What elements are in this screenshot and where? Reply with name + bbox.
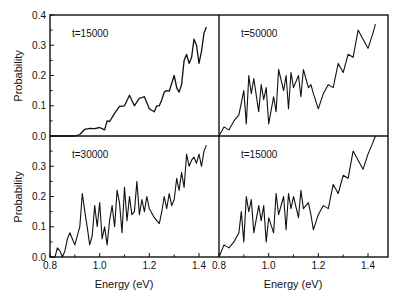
x-axis-title-left: Energy (eV) bbox=[95, 278, 154, 290]
panel-label: t=50000 bbox=[241, 28, 278, 39]
panel-label: t=30000 bbox=[72, 149, 109, 160]
x-tick-label: 1.2 bbox=[311, 260, 325, 271]
panel-label: t=15000 bbox=[72, 28, 109, 39]
panel-bottom-left: t=30000 bbox=[50, 145, 206, 257]
y-tick-label: 0.3 bbox=[32, 161, 46, 172]
data-line bbox=[219, 24, 375, 136]
data-line bbox=[50, 27, 206, 136]
x-tick-label: 1.2 bbox=[142, 260, 156, 271]
y-tick-label: 0.4 bbox=[32, 10, 46, 21]
y-tick-label: 0.1 bbox=[32, 100, 46, 111]
four-panel-probability-chart: t=15000t=50000t=30000t=15000 0.00.10.20.… bbox=[0, 0, 399, 296]
x-tick-label: 1.4 bbox=[361, 260, 375, 271]
x-tick-label: 0.8 bbox=[43, 260, 57, 271]
y-tick-label: 0.2 bbox=[32, 70, 46, 81]
panel-top-left: t=15000 bbox=[50, 27, 206, 136]
x-tick-label: 1.0 bbox=[93, 260, 107, 271]
y-tick-label: 0.2 bbox=[32, 191, 46, 202]
panel-bottom-right: t=15000 bbox=[219, 136, 375, 257]
data-line bbox=[50, 145, 206, 257]
x-tick-label: 0.8 bbox=[212, 260, 226, 271]
x-tick-label: 1.0 bbox=[262, 260, 276, 271]
axes: 0.00.10.20.30.40.00.10.20.30.81.01.21.40… bbox=[32, 10, 375, 272]
x-axis-title-right: Energy (eV) bbox=[264, 278, 323, 290]
x-tick-label: 1.4 bbox=[192, 260, 206, 271]
y-tick-label: 0.0 bbox=[32, 131, 46, 142]
panel-top-right: t=50000 bbox=[219, 24, 375, 136]
panel-label: t=15000 bbox=[241, 149, 278, 160]
y-axis-title-top: Probability bbox=[12, 50, 24, 102]
y-axis-title-bottom: Probability bbox=[12, 171, 24, 223]
panels: t=15000t=50000t=30000t=15000 bbox=[50, 24, 375, 257]
y-tick-label: 0.3 bbox=[32, 40, 46, 51]
y-tick-label: 0.1 bbox=[32, 221, 46, 232]
